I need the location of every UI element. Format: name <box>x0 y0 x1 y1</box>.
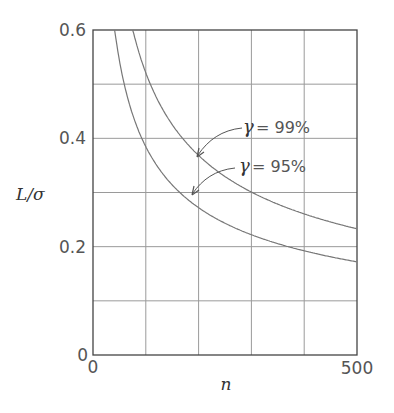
y-axis-label: L/σ <box>15 184 45 204</box>
arrowhead-99-icon <box>197 148 204 157</box>
chart: γ = 99% γ = 95% 0.6 0.4 0.2 0 0 500 L/σ … <box>0 0 394 413</box>
y-tick-0.4: 0.4 <box>59 128 86 148</box>
annotation-99-symbol: γ <box>243 116 254 137</box>
annotation-95-text: = 95% <box>252 157 306 176</box>
x-tick-0: 0 <box>88 357 99 377</box>
y-tick-0: 0 <box>77 345 88 365</box>
x-axis-label: n <box>221 374 232 394</box>
annotation-95-symbol: γ <box>239 155 250 176</box>
y-tick-0.2: 0.2 <box>59 237 86 257</box>
x-tick-500: 500 <box>341 358 373 378</box>
y-tick-0.6: 0.6 <box>59 20 86 40</box>
curve-gamma-95 <box>115 30 357 262</box>
arrow-99 <box>198 128 242 155</box>
arrow-95 <box>193 168 235 193</box>
annotation-99-text: = 99% <box>256 118 310 137</box>
grid <box>93 30 357 355</box>
